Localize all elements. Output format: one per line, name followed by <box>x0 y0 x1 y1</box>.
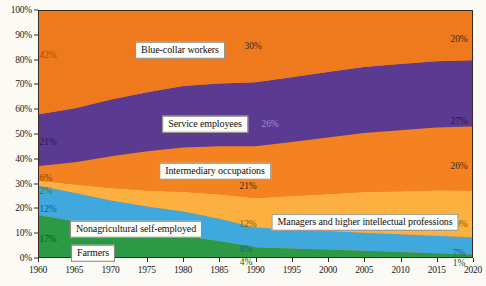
y-axis-tick-label: 20% <box>15 203 32 213</box>
series-name-label: Farmers <box>71 245 115 262</box>
y-axis-tick-label: 90% <box>15 30 32 40</box>
value-annotation: 12% <box>40 204 57 214</box>
x-axis-tick-label: 1985 <box>210 265 228 275</box>
x-axis: 1960196519701975198019851990199520002005… <box>38 258 473 284</box>
x-axis-tick-mark <box>256 258 257 262</box>
y-axis-tick-label: 10% <box>15 228 32 238</box>
stacked-area-chart: 0%10%20%30%40%50%60%70%80%90%100% 196019… <box>0 0 486 286</box>
y-axis-tick-label: 0% <box>20 253 32 263</box>
series-name-label: Blue-collar workers <box>135 42 225 59</box>
value-annotation: 12% <box>240 219 257 229</box>
x-axis-tick-label: 1965 <box>65 265 83 275</box>
x-axis-tick-label: 2005 <box>355 265 373 275</box>
y-axis-tick-label: 60% <box>15 104 32 114</box>
x-axis-tick-label: 1980 <box>174 265 192 275</box>
y-axis-tick-label: 70% <box>15 79 32 89</box>
value-annotation: 26% <box>451 161 468 171</box>
value-annotation: 6% <box>40 173 52 183</box>
value-annotation: 20% <box>451 34 468 44</box>
x-axis-tick-mark <box>147 258 148 262</box>
x-axis-tick-label: 1960 <box>29 265 47 275</box>
y-axis-tick-label: 50% <box>15 129 32 139</box>
x-axis-tick-label: 1995 <box>283 265 301 275</box>
series-name-label: Service employees <box>162 116 248 133</box>
y-axis-tick-label: 80% <box>15 55 32 65</box>
value-annotation: 4% <box>240 257 252 267</box>
value-annotation: 8% <box>240 244 252 254</box>
value-annotation: 1% <box>453 258 465 268</box>
x-axis-tick-label: 2010 <box>391 265 409 275</box>
x-axis-tick-mark <box>437 258 438 262</box>
x-axis-tick-mark <box>219 258 220 262</box>
y-axis-tick-label: 30% <box>15 179 32 189</box>
x-axis-tick-mark <box>38 258 39 262</box>
x-axis-tick-mark <box>364 258 365 262</box>
y-axis: 0%10%20%30%40%50%60%70%80%90%100% <box>0 10 38 258</box>
y-axis-tick-label: 40% <box>15 154 32 164</box>
series-name-label: Nonagricultural self-employed <box>70 221 202 238</box>
x-axis-tick-mark <box>328 258 329 262</box>
value-annotation: 21% <box>240 181 257 191</box>
x-axis-tick-label: 1970 <box>101 265 119 275</box>
series-name-label: Managers and higher intellectual profess… <box>272 214 459 231</box>
x-axis-tick-mark <box>292 258 293 262</box>
value-annotation: 30% <box>245 41 262 51</box>
value-annotation: 26% <box>262 119 279 129</box>
value-annotation: 17% <box>40 234 57 244</box>
value-annotation: 2% <box>40 186 52 196</box>
x-axis-tick-label: 1975 <box>138 265 156 275</box>
x-axis-tick-label: 2000 <box>319 265 337 275</box>
value-annotation: 21% <box>40 137 57 147</box>
value-annotation: 42% <box>40 50 57 60</box>
value-annotation: 7% <box>453 248 465 258</box>
series-name-label: Intermediary occupations <box>159 163 271 180</box>
y-axis-tick-label: 100% <box>11 5 32 15</box>
x-axis-tick-mark <box>401 258 402 262</box>
x-axis-tick-mark <box>473 258 474 262</box>
value-annotation: 27% <box>451 116 468 126</box>
x-axis-tick-label: 2015 <box>428 265 446 275</box>
x-axis-tick-label: 2020 <box>464 265 482 275</box>
x-axis-tick-mark <box>183 258 184 262</box>
